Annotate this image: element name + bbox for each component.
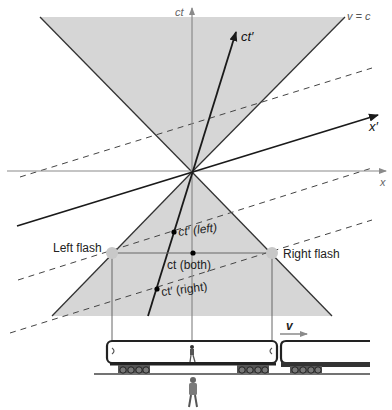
diagram-canvas (0, 0, 392, 410)
x-prime-axis-label: x′ (369, 120, 378, 133)
ct-both-dot (190, 250, 195, 255)
ct-prime-left-dot (171, 229, 176, 234)
ground-observer-figure (189, 377, 197, 407)
ct-prime-right-dot (154, 286, 159, 291)
light-cone-label: v = c (347, 11, 371, 22)
right-flash-label: Right flash (283, 248, 340, 260)
left-flash-point (106, 247, 118, 259)
spacetime-diagram: ct v = c ct′ x′ x Left flash Right flash… (0, 0, 392, 410)
train-car-2 (281, 341, 370, 363)
ct-axis-label: ct (175, 7, 184, 18)
ct-both-label: ct (both) (167, 259, 211, 271)
right-flash-point (266, 247, 278, 259)
velocity-label: v (286, 320, 293, 332)
train (94, 341, 370, 374)
left-flash-label: Left flash (53, 242, 102, 254)
x-axis-label: x (380, 177, 386, 188)
ct-both-text: ct (both) (167, 258, 211, 272)
ct-prime-axis-label: ct′ (241, 30, 254, 43)
